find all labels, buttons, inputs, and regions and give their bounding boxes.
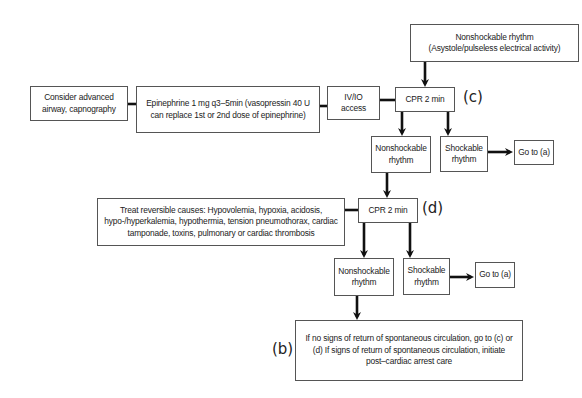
label-d: (d): [422, 199, 443, 217]
goto-a-box-2: Go to (a): [475, 262, 515, 288]
nonshock2-line2: rhythm: [352, 277, 377, 289]
shockable-rhythm-box-2: Shockable rhythm: [403, 258, 450, 295]
shockable-rhythm-box-1: Shockable rhythm: [440, 136, 488, 172]
shock2-line2: rhythm: [414, 277, 439, 289]
epinephrine-text: Epinephrine 1 mg q3–5min (vasopressin 40…: [143, 98, 313, 121]
treat-reversible-causes-box: Treat reversible causes: Hypovolemia, hy…: [97, 198, 345, 246]
cpr-d-text: CPR 2 min: [368, 205, 407, 217]
nonshock2-line1: Nonshockable: [338, 266, 389, 278]
iv-io-line2: access: [341, 103, 366, 115]
nonshock1-line1: Nonshockable: [375, 143, 426, 155]
rosc-decision-box: If no signs of return of spontaneous cir…: [295, 320, 523, 381]
goto-a-box-1: Go to (a): [514, 140, 554, 165]
label-b: (b): [272, 340, 293, 358]
goto-a-2-text: Go to (a): [479, 269, 511, 281]
final-text: If no signs of return of spontaneous cir…: [302, 333, 516, 368]
start-line2: (Asystole/pulseless electrical activity): [429, 43, 561, 55]
iv-io-line1: IV/IO: [344, 92, 362, 104]
airway-line1: Consider advanced: [44, 92, 114, 104]
airway-line2: airway, capnography: [42, 104, 116, 116]
treat-text: Treat reversible causes: Hypovolemia, hy…: [102, 205, 340, 240]
epinephrine-box: Epinephrine 1 mg q3–5min (vasopressin 40…: [136, 86, 320, 133]
cpr-d-box: CPR 2 min: [358, 198, 418, 223]
shock1-line2: rhythm: [452, 154, 477, 166]
nonshockable-rhythm-box-2: Nonshockable rhythm: [334, 258, 394, 296]
shock2-line1: Shockable: [408, 265, 446, 277]
label-c: (c): [463, 88, 483, 106]
shock1-line1: Shockable: [445, 143, 483, 155]
cpr-c-box: CPR 2 min: [395, 87, 455, 112]
cpr-c-text: CPR 2 min: [405, 94, 444, 106]
advanced-airway-box: Consider advanced airway, capnography: [30, 86, 128, 121]
start-line1: Nonshockable rhythm: [455, 32, 533, 44]
start-nonshockable-box: Nonshockable rhythm (Asystole/pulseless …: [410, 24, 579, 62]
goto-a-1-text: Go to (a): [518, 147, 550, 159]
iv-io-access-box: IV/IO access: [327, 86, 380, 120]
nonshockable-rhythm-box-1: Nonshockable rhythm: [371, 136, 431, 173]
nonshock1-line2: rhythm: [389, 155, 414, 167]
